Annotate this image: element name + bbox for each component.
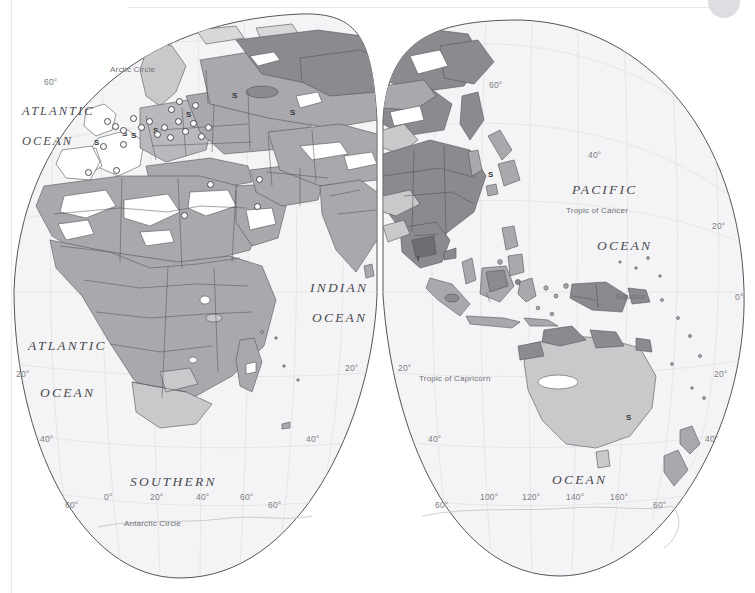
left-lobe [14,14,380,578]
right-lobe [383,20,744,576]
map-page: ATLANTICOCEANATLANTICOCEANINDIANOCEANPAC… [0,0,755,593]
world-map-graphic [0,0,755,593]
